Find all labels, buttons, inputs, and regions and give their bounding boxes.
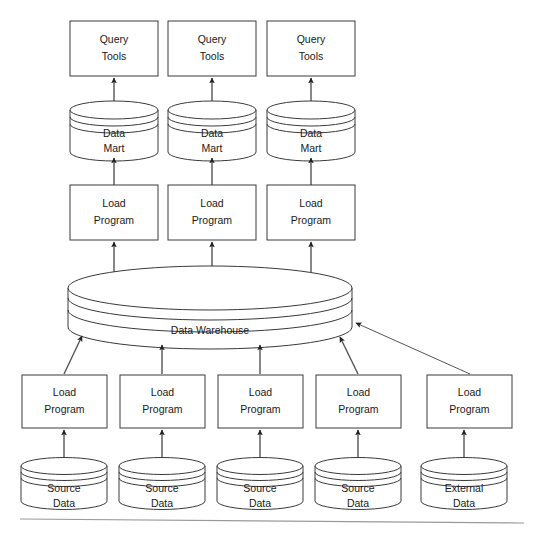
mart-load-program-box-3[interactable]: [267, 185, 355, 240]
query-tools-node-2[interactable]: Query Tools: [168, 21, 256, 76]
arrow-srcloadprog4-to-warehouse: [340, 337, 358, 374]
data-mart-label-3-line2: Mart: [301, 142, 322, 154]
source-load-program-box-4[interactable]: [316, 375, 401, 428]
data-mart-node-2[interactable]: Data Mart: [168, 101, 256, 161]
source-load-program-box-5[interactable]: [427, 375, 512, 428]
source-load-program-label-3-line2: Program: [240, 403, 281, 415]
source-data-label-3-line1: Source: [243, 482, 276, 494]
source-data-label-2-line1: Source: [145, 482, 178, 494]
data-mart-node-1[interactable]: Data Mart: [70, 101, 158, 161]
mart-load-program-node-2[interactable]: Load Program: [168, 185, 256, 240]
external-data-node[interactable]: External Data: [421, 458, 507, 510]
source-load-program-node-3[interactable]: Load Program: [218, 375, 303, 428]
data-mart-row: Data Mart Data Mart Data Mart: [70, 101, 355, 161]
source-load-program-box-1[interactable]: [22, 375, 107, 428]
diagram-canvas: Query Tools Query Tools Query Tools Data…: [0, 0, 544, 538]
source-load-program-node-4[interactable]: Load Program: [316, 375, 401, 428]
data-mart-node-3[interactable]: Data Mart: [267, 101, 355, 161]
data-mart-label-1-line1: Data: [103, 127, 125, 139]
source-load-program-row: Load Program Load Program Load Program L…: [22, 375, 512, 428]
source-load-program-label-5-line2: Program: [449, 403, 490, 415]
source-data-label-1-line2: Data: [53, 497, 75, 509]
external-data-label-line2: Data: [453, 497, 475, 509]
query-tools-label-1-line1: Query: [100, 33, 129, 45]
external-data-top: [421, 458, 507, 475]
mart-load-program-box-1[interactable]: [70, 185, 158, 240]
query-tools-label-3-line2: Tools: [299, 50, 324, 62]
external-data-label-line1: External: [445, 482, 484, 494]
data-mart-label-2-line1: Data: [201, 127, 223, 139]
source-to-loadprogram-arrows: [64, 430, 464, 460]
data-mart-top-1: [70, 101, 158, 119]
source-data-top-4: [315, 458, 401, 475]
mart-load-program-box-2[interactable]: [168, 185, 256, 240]
source-load-program-label-2-line1: Load: [151, 386, 175, 398]
source-load-program-box-3[interactable]: [218, 375, 303, 428]
mart-load-program-node-1[interactable]: Load Program: [70, 185, 158, 240]
data-mart-label-2-line2: Mart: [202, 142, 223, 154]
source-data-label-1-line1: Source: [47, 482, 80, 494]
query-tools-label-2-line1: Query: [198, 33, 227, 45]
mart-load-program-label-2-line2: Program: [192, 214, 233, 226]
query-tools-node-3[interactable]: Query Tools: [267, 21, 355, 76]
data-mart-top-3: [267, 101, 355, 119]
source-load-program-node-1[interactable]: Load Program: [22, 375, 107, 428]
source-load-program-label-3-line1: Load: [249, 386, 273, 398]
mart-load-program-label-1-line1: Load: [102, 197, 126, 209]
query-tools-box-2[interactable]: [168, 21, 256, 76]
data-mart-label-1-line2: Mart: [104, 142, 125, 154]
source-data-label-3-line2: Data: [249, 497, 271, 509]
source-data-node-2[interactable]: Source Data: [119, 458, 205, 510]
query-tools-box-1[interactable]: [70, 21, 158, 76]
source-data-label-2-line2: Data: [151, 497, 173, 509]
source-data-top-1: [21, 458, 107, 475]
query-tools-label-2-line2: Tools: [200, 50, 225, 62]
data-warehouse-label: Data Warehouse: [171, 324, 250, 336]
query-tools-row: Query Tools Query Tools Query Tools: [70, 21, 355, 76]
query-tools-node-1[interactable]: Query Tools: [70, 21, 158, 76]
data-warehouse-top: [68, 266, 352, 310]
source-data-node-3[interactable]: Source Data: [217, 458, 303, 510]
source-data-top-3: [217, 458, 303, 475]
source-load-program-label-1-line1: Load: [53, 386, 77, 398]
data-warehouse-architecture-diagram: Query Tools Query Tools Query Tools Data…: [0, 0, 544, 538]
source-data-label-4-line1: Source: [341, 482, 374, 494]
mart-load-program-label-1-line2: Program: [94, 214, 135, 226]
source-load-program-label-2-line2: Program: [142, 403, 183, 415]
arrow-srcloadprog1-to-warehouse: [64, 336, 82, 374]
source-load-program-label-4-line1: Load: [347, 386, 371, 398]
mart-load-program-node-3[interactable]: Load Program: [267, 185, 355, 240]
source-load-program-node-5[interactable]: Load Program: [427, 375, 512, 428]
mart-to-query-arrows: [114, 78, 311, 104]
source-data-node-1[interactable]: Source Data: [21, 458, 107, 510]
source-data-node-4[interactable]: Source Data: [315, 458, 401, 510]
data-warehouse-node[interactable]: Data Warehouse: [68, 266, 352, 349]
mart-load-program-row: Load Program Load Program Load Program: [70, 185, 355, 240]
source-load-program-box-2[interactable]: [120, 375, 205, 428]
source-load-program-node-2[interactable]: Load Program: [120, 375, 205, 428]
query-tools-label-1-line2: Tools: [102, 50, 127, 62]
mart-load-program-label-3-line1: Load: [299, 197, 323, 209]
data-mart-label-3-line1: Data: [300, 127, 322, 139]
arrow-srcloadprog5-to-warehouse: [356, 323, 470, 374]
source-data-top-2: [119, 458, 205, 475]
loadprogram-to-mart-arrows: [114, 158, 311, 185]
source-load-program-label-5-line1: Load: [458, 386, 482, 398]
source-load-program-label-1-line2: Program: [44, 403, 85, 415]
mart-load-program-label-3-line2: Program: [291, 214, 332, 226]
query-tools-box-3[interactable]: [267, 21, 355, 76]
source-data-label-4-line2: Data: [347, 497, 369, 509]
source-data-row: Source Data Source Data Source Data Sour…: [21, 458, 507, 510]
mart-load-program-label-2-line1: Load: [200, 197, 224, 209]
query-tools-label-3-line1: Query: [297, 33, 326, 45]
footer-divider: [20, 519, 524, 523]
source-load-program-label-4-line2: Program: [338, 403, 379, 415]
data-mart-top-2: [168, 101, 256, 119]
